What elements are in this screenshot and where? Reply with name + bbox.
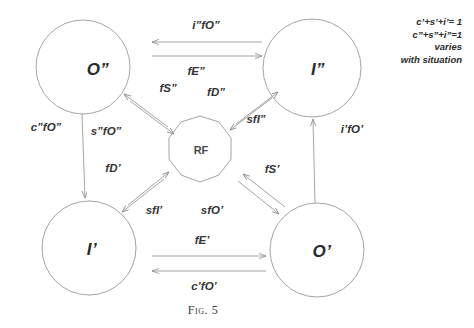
edge-s2fO2: [130, 101, 174, 134]
annotation-line-2: c”+s”+i”=1: [401, 29, 462, 42]
edge-label-s2fO2: s”fO”: [91, 125, 122, 137]
node-label-RF: RF: [194, 144, 209, 156]
edge-label-c2fO2: c”fO”: [31, 121, 62, 133]
edge-label-sfO1: sfO’: [201, 204, 223, 216]
edge-c2fO2: [82, 114, 85, 198]
edge-label-c1fO1: c’fO’: [191, 280, 217, 292]
annotation-line-3: varies: [401, 41, 462, 54]
edge-label-fD1: fD’: [105, 162, 120, 174]
figure-caption: Fig. 5: [188, 303, 219, 318]
edge-label-fE1: fE’: [195, 234, 210, 246]
node-label-I1: I’: [87, 240, 97, 260]
edge-fD1: [128, 172, 169, 205]
edge-i1fO1: [313, 119, 315, 203]
edge-label-fS2: fS”: [159, 82, 176, 94]
edge-label-sfI1: sfI’: [146, 204, 163, 216]
edge-label-fD2: fD”: [207, 86, 225, 98]
node-label-O1: O’: [313, 242, 332, 262]
edge-fS2: [124, 94, 168, 127]
edge-label-sfI2: sfI”: [246, 113, 265, 125]
annotation-line-4: with situation: [401, 54, 462, 67]
node-label-O2: O”: [87, 60, 110, 80]
edge-label-i2fO2: i”fO”: [192, 19, 219, 31]
edge-label-fE2: fE”: [187, 65, 204, 77]
annotation-block: c’+s’+i’= 1 c”+s”+i”=1 varies with situa…: [401, 16, 462, 66]
node-label-I2: I”: [311, 60, 325, 80]
node-circle-O2: [36, 20, 130, 114]
edge-label-i1fO1: i’fO’: [341, 123, 363, 135]
edge-label-fS1: fS’: [265, 163, 280, 175]
annotation-line-1: c’+s’+i’= 1: [401, 16, 462, 29]
figure-container: O” I” I’ O’ RF i”fO” fE” fS” s”fO” fD” s…: [0, 0, 474, 328]
